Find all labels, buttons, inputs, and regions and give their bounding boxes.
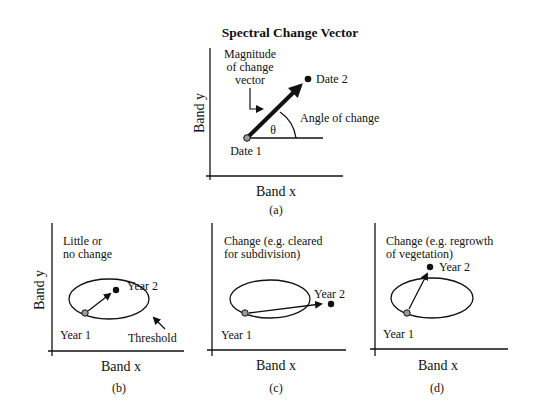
x-axis-label: Band x (418, 358, 458, 373)
x-axis-label: Band x (101, 359, 141, 374)
year2-label: Year 2 (439, 260, 470, 274)
threshold-pointer-arrow-icon (154, 318, 165, 329)
y-axis-label: Band y (192, 93, 207, 133)
note-line-1: Little or (63, 234, 102, 248)
panel-c: Band x (c) Change (e.g. cleared for subd… (207, 223, 346, 395)
year1-label: Year 1 (383, 327, 414, 341)
panel-caption: (d) (430, 381, 444, 395)
magnitude-label-line-3: vector (235, 73, 265, 87)
angle-label: Angle of change (300, 111, 379, 125)
year1-point (242, 310, 248, 316)
note-line-1: Change (e.g. regrowth (386, 234, 493, 248)
year2-label: Year 2 (314, 287, 345, 301)
year2-label: Year 2 (127, 279, 158, 293)
magnitude-label-line-2: of change (227, 60, 274, 74)
change-vector-arrow-icon (88, 294, 110, 311)
panel-a: Spectral Change Vector Band y Band x (a)… (192, 25, 379, 217)
threshold-label: Threshold (128, 331, 177, 345)
x-axis-label: Band x (256, 184, 296, 199)
x-axis-label: Band x (256, 358, 296, 373)
year1-label: Year 1 (221, 328, 252, 342)
panel-d: Band x (d) Change (e.g. regrowth of vege… (370, 223, 508, 395)
date2-point (305, 76, 312, 83)
year1-label: Year 1 (60, 328, 91, 342)
note-line-2: of vegetation) (386, 247, 453, 261)
theta-symbol: θ (270, 123, 276, 137)
panel-caption: (c) (269, 381, 282, 395)
magnitude-pointer-arrow-icon (250, 88, 262, 109)
year1-point (82, 310, 88, 316)
date1-label: Date 1 (230, 144, 262, 158)
note-line-2: for subdivision) (224, 247, 300, 261)
year1-point (404, 310, 410, 316)
date2-label: Date 2 (316, 72, 348, 86)
panel-caption: (b) (112, 381, 126, 395)
magnitude-label-line-1: Magnitude (224, 47, 276, 61)
date1-point (244, 135, 251, 142)
panel-b: Band y Band x (b) Little or no change Ye… (32, 223, 184, 395)
panel-a-title: Spectral Change Vector (222, 25, 358, 40)
y-axis-label: Band y (32, 270, 47, 310)
year2-point (113, 287, 119, 293)
change-vector-arrow-icon (249, 304, 321, 313)
angle-arc (280, 112, 296, 138)
threshold-ellipse (391, 278, 473, 318)
spectral-change-diagram: Spectral Change Vector Band y Band x (a)… (0, 0, 540, 414)
note-line-2: no change (63, 247, 112, 261)
year2-point (427, 264, 433, 270)
note-line-1: Change (e.g. cleared (224, 234, 323, 248)
panel-caption: (a) (269, 203, 282, 217)
year2-point (328, 301, 334, 307)
